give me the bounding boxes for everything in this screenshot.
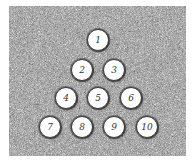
peg-7[interactable]: 7 [39, 116, 61, 138]
peg-label: 7 [47, 122, 53, 132]
peg-4[interactable]: 4 [55, 87, 77, 109]
peg-2[interactable]: 2 [71, 59, 93, 81]
peg-label: 5 [95, 93, 101, 103]
peg-6[interactable]: 6 [120, 87, 142, 109]
peg-10[interactable]: 10 [136, 116, 158, 138]
peg-1[interactable]: 1 [87, 29, 109, 51]
peg-5[interactable]: 5 [87, 87, 109, 109]
peg-label: 4 [63, 93, 69, 103]
peg-9[interactable]: 9 [103, 116, 125, 138]
peg-label: 3 [111, 65, 117, 75]
peg-label: 9 [111, 122, 117, 132]
peg-label: 8 [79, 122, 85, 132]
peg-label: 1 [95, 35, 101, 45]
peg-3[interactable]: 3 [103, 59, 125, 81]
peg-label: 6 [128, 93, 134, 103]
peg-label: 2 [79, 65, 85, 75]
peg-label: 10 [141, 122, 152, 132]
peg-8[interactable]: 8 [71, 116, 93, 138]
